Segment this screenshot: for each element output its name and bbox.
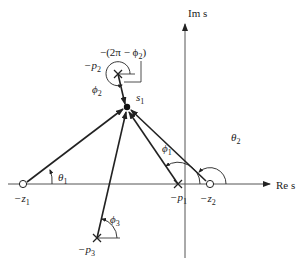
angle-theta1-label: θ1 <box>58 172 67 186</box>
annotation-leader <box>124 61 141 82</box>
angle-phi1-label: ϕ1 <box>162 143 172 157</box>
zero-z2-icon <box>206 180 213 187</box>
angle-phi3-label: ϕ3 <box>110 214 120 228</box>
zero-z2-label: −z2 <box>200 193 216 207</box>
angle-theta2-label: θ2 <box>231 132 240 146</box>
vector-z1-to-s1 <box>27 109 123 182</box>
test-point-s1 <box>124 104 130 110</box>
angle-theta1-arc <box>23 170 60 184</box>
imag-axis-label: Im s <box>188 8 207 19</box>
angle-phi2-label: ϕ2 <box>92 84 102 98</box>
vector-p2-to-s1 <box>118 74 125 104</box>
pole-p1-label: −p1 <box>170 192 187 206</box>
test-point-label: s1 <box>136 92 144 106</box>
zero-z1-label: −z1 <box>14 193 30 207</box>
s-plane-diagram <box>0 0 307 264</box>
pole-p3-label: −p3 <box>78 244 95 258</box>
annotation-label: −(2π − ϕ2) <box>100 47 146 61</box>
pole-p2-label: −p2 <box>84 60 101 74</box>
real-axis-label: Re s <box>276 180 295 191</box>
